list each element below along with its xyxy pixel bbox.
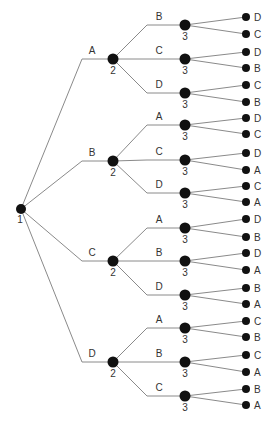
leaf-node (242, 166, 250, 174)
level2-node (180, 223, 191, 234)
edge-level1 (21, 209, 113, 362)
edge-leaf (185, 85, 246, 93)
edge-leaf (185, 328, 246, 337)
level2-depth-label: 3 (182, 131, 188, 142)
level1-node (108, 256, 119, 267)
level2-node (180, 323, 191, 334)
level2-edge-label: C (155, 382, 162, 393)
edge-leaf (185, 193, 246, 202)
leaf-node (242, 130, 250, 138)
leaf-node (242, 81, 250, 89)
leaf-node (242, 401, 250, 409)
leaf-node (242, 368, 250, 376)
leaf-label: B (254, 63, 261, 74)
level2-edge-label: D (155, 281, 162, 292)
level2-depth-label: 3 (182, 301, 188, 312)
level2-depth-label: 3 (182, 402, 188, 413)
edge-leaf (185, 125, 246, 134)
level2-node (180, 391, 191, 402)
edge-level1 (21, 59, 113, 209)
edge-leaf (185, 396, 246, 405)
leaf-label: B (254, 332, 261, 343)
level2-edge-label: B (156, 348, 163, 359)
leaf-node (242, 149, 250, 157)
leaf-label: D (254, 214, 261, 225)
edge-leaf (185, 186, 246, 193)
level1-node (108, 357, 119, 368)
edge-leaf (185, 288, 246, 295)
level2-node (180, 54, 191, 65)
level2-depth-label: 3 (182, 65, 188, 76)
root-node (16, 204, 26, 214)
leaf-label: A (254, 367, 261, 378)
level2-depth-label: 3 (182, 368, 188, 379)
edge-level2 (113, 125, 185, 161)
leaf-node (242, 98, 250, 106)
level1-depth-label: 2 (110, 65, 116, 76)
leaf-node (242, 284, 250, 292)
edge-leaf (185, 93, 246, 102)
leaf-label: A (254, 299, 261, 310)
leaf-label: D (254, 148, 261, 159)
leaf-node (242, 215, 250, 223)
level2-depth-label: 3 (182, 334, 188, 345)
leaf-node (242, 351, 250, 359)
edge-level2 (113, 328, 185, 362)
level2-node (180, 20, 191, 31)
leaf-node (242, 30, 250, 38)
edge-leaf (185, 25, 246, 34)
leaf-node (242, 300, 250, 308)
edge-leaf (185, 52, 246, 59)
edge-level2 (113, 161, 185, 193)
edge-leaf (185, 160, 246, 170)
leaf-label: A (254, 197, 261, 208)
edge-level2 (113, 261, 185, 295)
leaf-label: C (254, 181, 261, 192)
nodes (16, 13, 250, 409)
labels: 1A2B3DCC3DBD3CBB2A3DCC3DAD3CAC2A3DBB3DAD… (17, 11, 261, 413)
level2-edge-label: C (155, 45, 162, 56)
level2-depth-label: 3 (182, 199, 188, 210)
level2-depth-label: 3 (182, 234, 188, 245)
edge-level2 (113, 362, 185, 396)
edge-level2 (113, 160, 185, 161)
level1-depth-label: 2 (110, 368, 116, 379)
level2-node (180, 256, 191, 267)
edge-level1 (21, 161, 113, 209)
edge-leaf (185, 261, 246, 270)
level1-depth-label: 2 (110, 167, 116, 178)
leaf-node (242, 333, 250, 341)
level1-node (108, 156, 119, 167)
leaf-label: A (254, 165, 261, 176)
leaf-label: A (254, 265, 261, 276)
leaf-label: D (254, 12, 261, 23)
level2-depth-label: 3 (182, 267, 188, 278)
leaf-node (242, 266, 250, 274)
leaf-label: C (254, 350, 261, 361)
edge-level2 (113, 228, 185, 261)
root-depth-label: 1 (17, 214, 23, 225)
edge-leaf (185, 253, 246, 261)
edge-leaf (185, 153, 246, 160)
level2-node (180, 188, 191, 199)
level2-edge-label: B (156, 247, 163, 258)
level2-node (180, 357, 191, 368)
edge-leaf (185, 219, 246, 228)
edge-leaf (185, 59, 246, 68)
leaf-node (242, 64, 250, 72)
level2-depth-label: 3 (182, 99, 188, 110)
leaf-node (242, 48, 250, 56)
edge-leaf (185, 389, 246, 396)
edge-leaf (185, 362, 246, 372)
edges (21, 17, 246, 405)
edge-leaf (185, 355, 246, 362)
level2-node (180, 88, 191, 99)
edge-leaf (185, 17, 246, 25)
leaf-node (242, 182, 250, 190)
edge-leaf (185, 321, 246, 328)
edge-level2 (113, 25, 185, 59)
leaf-label: D (254, 113, 261, 124)
leaf-label: A (254, 400, 261, 411)
level2-node (180, 155, 191, 166)
level2-depth-label: 3 (182, 31, 188, 42)
